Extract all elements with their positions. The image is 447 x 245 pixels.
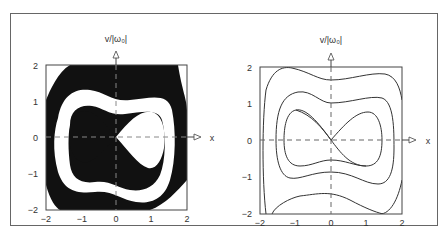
- right-plot: v/|ω₀| x 2 1 0 −1 −2 −2 −1 0 1 2: [242, 35, 431, 228]
- left-x-tick: 2: [184, 214, 189, 224]
- left-x-axis-label: x: [210, 133, 215, 143]
- left-y-tick: −2: [28, 205, 38, 215]
- y-axis-arrow-icon: [328, 53, 334, 60]
- left-y-tick: 0: [33, 133, 38, 143]
- right-x-axis-label: x: [426, 136, 431, 146]
- left-y-tick: 1: [33, 97, 38, 107]
- left-y-tick: −1: [28, 169, 38, 179]
- figure-svg: v/|ω₀| x 2 1 0 −1 −2 −2 −1 0 1 2: [0, 0, 447, 245]
- right-y-tick: 1: [247, 99, 252, 109]
- left-y-tick: 2: [33, 61, 38, 71]
- right-x-tick: 1: [363, 218, 368, 228]
- y-axis-arrow-icon: [113, 51, 119, 58]
- left-x-tick: −1: [77, 214, 87, 224]
- right-y-tick: 2: [247, 63, 252, 73]
- left-plot: v/|ω₀| x 2 1 0 −1 −2 −2 −1 0 1 2: [28, 34, 215, 224]
- left-x-tick: −2: [41, 214, 51, 224]
- right-x-tick: −1: [290, 218, 300, 228]
- right-y-tick: −1: [242, 172, 252, 182]
- left-y-axis-label: v/|ω₀|: [105, 34, 127, 44]
- left-x-tick: 0: [113, 214, 118, 224]
- right-x-tick: 2: [399, 218, 404, 228]
- right-x-tick: −2: [255, 218, 265, 228]
- right-y-tick: −2: [242, 209, 252, 219]
- x-axis-arrow-icon: [194, 134, 201, 140]
- left-x-tick: 1: [148, 214, 153, 224]
- right-x-tick: 0: [328, 218, 333, 228]
- right-y-axis-label: v/|ω₀|: [320, 35, 342, 45]
- right-y-tick: 0: [247, 136, 252, 146]
- x-axis-arrow-icon: [409, 137, 416, 143]
